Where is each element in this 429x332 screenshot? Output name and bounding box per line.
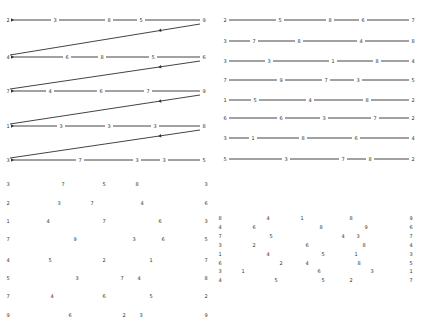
digit-label: 8 [319, 224, 322, 230]
digit-label: 7 [409, 233, 412, 239]
digit-label: 3 [370, 268, 373, 274]
digit-label: 8 [411, 38, 414, 44]
digit-label: 1 [6, 218, 9, 224]
digit-label: 8 [204, 275, 207, 281]
digit-label: 6 [361, 17, 364, 23]
digit-label: 4 [6, 257, 9, 263]
digit-label: 3 [57, 200, 60, 206]
digit-label: 7 [102, 218, 105, 224]
digit-label: 9 [279, 77, 282, 83]
digit-label: 3 [267, 58, 270, 64]
digit-label: 4 [50, 293, 53, 299]
digit-label: 7 [6, 88, 9, 94]
digit-label: 7 [223, 77, 226, 83]
arrowhead-icon [11, 158, 14, 162]
digit-label: 8 [100, 54, 103, 60]
digit-label: 1 [331, 58, 334, 64]
digit-label: 5 [409, 260, 412, 266]
digit-label: 1 [149, 257, 152, 263]
digit-label: 5 [269, 233, 272, 239]
digit-label: 7 [61, 181, 64, 187]
digit-label: 7 [411, 17, 414, 23]
digit-label: 3 [6, 157, 9, 163]
return-line [10, 24, 200, 55]
digit-label: 4 [266, 251, 269, 257]
digit-label: 3 [75, 275, 78, 281]
digit-label: 8 [202, 123, 205, 129]
arrowhead-icon [11, 89, 14, 93]
digit-label: 4 [341, 233, 344, 239]
digit-label: 7 [146, 88, 149, 94]
digit-label: 2 [204, 293, 207, 299]
digit-label: 5 [102, 181, 105, 187]
digit-label: 2 [6, 17, 9, 23]
digit-label: 1 [251, 135, 254, 141]
digit-label: 3 [356, 77, 359, 83]
digit-label: 8 [375, 58, 378, 64]
arrowhead-icon [11, 18, 14, 22]
digit-label: 2 [279, 260, 282, 266]
digit-label: 5 [6, 275, 9, 281]
digit-label: 8 [357, 260, 360, 266]
digit-label: 9 [364, 224, 367, 230]
digit-label: 1 [6, 123, 9, 129]
digit-label: 3 [284, 156, 287, 162]
digit-label: 3 [204, 218, 207, 224]
digit-label: 7 [78, 157, 81, 163]
digit-label: 5 [321, 251, 324, 257]
digit-label: 7 [6, 236, 9, 242]
digit-label: 9 [202, 17, 205, 23]
digit-field: 3758323746147637936545217537487465296239 [0, 170, 215, 332]
digit-label: 7 [204, 257, 207, 263]
digit-label: 7 [341, 156, 344, 162]
digit-label: 3 [204, 181, 207, 187]
return-line [10, 61, 200, 89]
digit-label: 4 [359, 38, 362, 44]
digit-label: 8 [368, 156, 371, 162]
digit-label: 5 [411, 77, 414, 83]
digit-label: 2 [6, 200, 9, 206]
digit-label: 3 [135, 157, 138, 163]
digit-label: 7 [324, 77, 327, 83]
digit-label: 6 [65, 54, 68, 60]
digit-label: 3 [223, 38, 226, 44]
digit-label: 6 [68, 312, 71, 318]
digit-label: 2 [122, 312, 125, 318]
digit-label: 5 [139, 17, 142, 23]
digit-label: 1 [241, 268, 244, 274]
digit-label: 1 [218, 251, 221, 257]
digit-label: 6 [202, 54, 205, 60]
digit-label: 2 [411, 115, 414, 121]
digit-label: 6 [158, 218, 161, 224]
digit-label: 4 [218, 224, 221, 230]
digit-label: 5 [278, 17, 281, 23]
digit-label: 2 [223, 17, 226, 23]
digit-label: 5 [149, 293, 152, 299]
digit-label: 4 [137, 275, 140, 281]
digit-label: 6 [223, 115, 226, 121]
digit-label: 5 [204, 236, 207, 242]
digit-label: 6 [317, 268, 320, 274]
digit-label: 9 [409, 215, 412, 221]
digit-label: 6 [204, 200, 207, 206]
digit-label: 9 [6, 312, 9, 318]
digit-label: 7 [373, 115, 376, 121]
return-line [10, 95, 200, 124]
digit-label: 3 [223, 58, 226, 64]
digit-label: 5 [253, 97, 256, 103]
digit-label: 2 [411, 156, 414, 162]
digit-label: 3 [53, 17, 56, 23]
digit-label: 4 [6, 54, 9, 60]
digit-label: 8 [349, 215, 352, 221]
panel-scattered-digits-left: 3758323746147637936545217537487465296239 [0, 170, 215, 332]
digit-label: 3 [6, 181, 9, 187]
digit-field: 8418946896754373268414513624853163145527 [215, 170, 429, 332]
digit-label: 6 [99, 88, 102, 94]
digit-label: 6 [218, 260, 221, 266]
digit-label: 6 [354, 135, 357, 141]
digit-label: 6 [161, 236, 164, 242]
digit-label: 4 [140, 200, 143, 206]
digit-label: 4 [411, 58, 414, 64]
digit-label: 5 [151, 54, 154, 60]
panel-linked-rows: 2586737848331847973515482663723186453782 [215, 0, 429, 170]
